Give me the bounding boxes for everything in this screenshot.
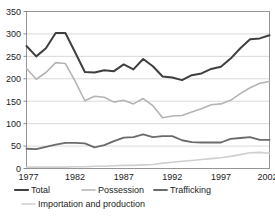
series-line-trafficking <box>27 134 270 149</box>
y-tick-label: 250 <box>6 52 21 62</box>
chart-legend: TotalPossessionTraffickingImportation an… <box>15 185 211 209</box>
y-tick-label: 100 <box>6 119 21 129</box>
legend-item-possession: Possession <box>82 185 144 195</box>
x-tick-label: 1992 <box>162 172 182 182</box>
y-tick-label: 150 <box>6 97 21 107</box>
line-chart-figure: 050100150200250300350 197719821987199219… <box>0 0 275 218</box>
plot-frame <box>27 12 270 169</box>
series-line-possession <box>27 63 270 118</box>
legend-item-importation-and-production: Importation and production <box>22 199 145 209</box>
x-tick-label: 1997 <box>211 172 231 182</box>
y-tick-label: 300 <box>6 29 21 39</box>
series-lines <box>27 33 270 167</box>
legend-item-total: Total <box>15 185 50 195</box>
legend-label: Total <box>31 185 50 195</box>
legend-label: Trafficking <box>170 185 211 195</box>
legend-label: Importation and production <box>38 199 145 209</box>
x-axis-labels: 197719821987199219972002 <box>18 172 275 182</box>
legend-item-trafficking: Trafficking <box>154 185 211 195</box>
y-axis-labels: 050100150200250300350 <box>6 7 21 174</box>
gridlines <box>27 34 270 146</box>
x-tick-label: 2002 <box>257 172 275 182</box>
x-tick-label: 1987 <box>114 172 134 182</box>
y-tick-label: 200 <box>6 74 21 84</box>
legend-label: Possession <box>98 185 144 195</box>
y-tick-label: 50 <box>11 141 21 151</box>
x-tick-label: 1977 <box>18 172 38 182</box>
series-line-importation-and-production <box>27 152 270 167</box>
x-tick-label: 1982 <box>65 172 85 182</box>
y-tick-label: 350 <box>6 7 21 17</box>
